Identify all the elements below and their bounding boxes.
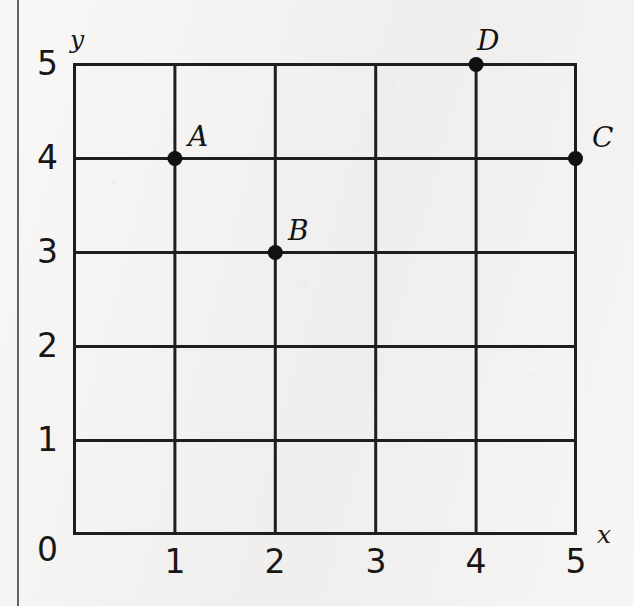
point-marker-A: [167, 151, 182, 166]
grid-lines: [73, 63, 577, 534]
y-tick-label-4: 4: [12, 141, 58, 174]
point-marker-B: [268, 245, 283, 260]
y-tick-label-0: 0: [12, 533, 58, 566]
x-tick-label-1: 1: [152, 545, 198, 578]
point-label-C: C: [592, 124, 613, 152]
point-label-A: A: [188, 123, 208, 151]
point-label-D: D: [477, 27, 499, 55]
y-tick-label-1: 1: [12, 423, 58, 456]
point-marker-C: [568, 151, 583, 166]
y-tick-label-3: 3: [12, 235, 58, 268]
y-tick-label-5: 5: [12, 47, 58, 80]
coordinate-grid-plot: [0, 0, 634, 606]
x-tick-label-4: 4: [453, 545, 499, 578]
point-label-B: B: [288, 217, 309, 245]
y-tick-label-2: 2: [12, 329, 58, 362]
x-axis-label: x: [597, 522, 611, 547]
x-tick-label-5: 5: [553, 545, 599, 578]
x-tick-label-2: 2: [252, 545, 298, 578]
figure-canvas: y x 0 1 2 3 4 5 1 2 3 4 5 A B C D: [0, 0, 634, 606]
y-axis-label: y: [70, 27, 84, 52]
point-marker-D: [469, 57, 484, 72]
x-tick-label-3: 3: [353, 545, 399, 578]
